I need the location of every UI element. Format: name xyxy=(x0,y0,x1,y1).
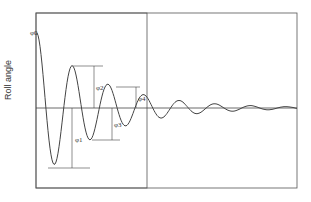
svg-text:φ2: φ2 xyxy=(96,84,104,92)
svg-text:φ1: φ1 xyxy=(75,136,83,144)
svg-text:φ0: φ0 xyxy=(30,29,38,37)
svg-text:φ4: φ4 xyxy=(138,95,146,103)
svg-text:φ3: φ3 xyxy=(114,121,122,129)
roll-decay-diagram: φ0 φ1 φ2 φ3 φ4 xyxy=(0,0,311,202)
amplitude-markers xyxy=(48,66,140,168)
plot-frame xyxy=(36,13,297,188)
roll-decay-curve xyxy=(37,33,297,164)
